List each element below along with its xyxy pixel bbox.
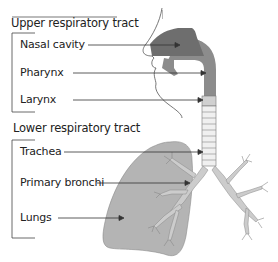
upper-tract-title: Upper respiratory tract <box>11 16 139 30</box>
label-primary-bronchi: Primary bronchi <box>20 176 104 189</box>
label-larynx: Larynx <box>20 93 56 106</box>
face-profile-outline <box>143 8 182 118</box>
label-nasal-cavity: Nasal cavity <box>20 38 85 51</box>
lower-tract-title: Lower respiratory tract <box>13 121 140 135</box>
label-pharynx: Pharynx <box>20 66 63 79</box>
trachea-shape <box>202 106 216 166</box>
left-lung-shape <box>103 142 193 256</box>
larynx-shape <box>202 96 216 106</box>
label-trachea: Trachea <box>20 145 62 158</box>
label-lungs: Lungs <box>20 211 52 224</box>
